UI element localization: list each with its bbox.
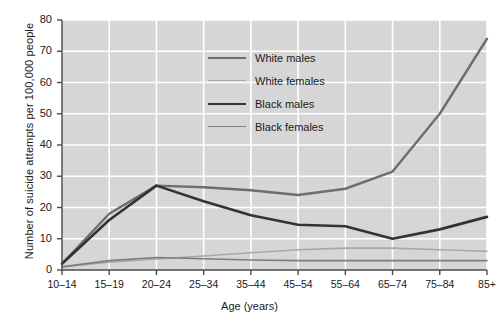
y-tick-label: 30 — [22, 169, 52, 181]
legend-item[interactable]: White males — [208, 46, 325, 69]
legend-line-swatch — [208, 57, 246, 59]
legend-line-swatch — [208, 103, 246, 105]
legend-line-swatch — [208, 126, 246, 127]
x-tick-label: 20–24 — [142, 278, 171, 290]
legend-item[interactable]: Black males — [208, 92, 325, 115]
x-tick-label: 45–54 — [284, 278, 313, 290]
x-tick-label: 55–64 — [331, 278, 360, 290]
x-tick-label: 75–84 — [425, 278, 454, 290]
y-tick-label: 60 — [22, 76, 52, 88]
legend-label: Black males — [255, 98, 314, 110]
x-tick-label: 85+ — [478, 278, 496, 290]
y-tick-label: 0 — [22, 263, 52, 275]
legend-label: Black females — [255, 121, 323, 133]
y-tick-label: 20 — [22, 201, 52, 213]
chart-legend: White malesWhite femalesBlack malesBlack… — [208, 46, 325, 138]
x-tick-label: 35–44 — [236, 278, 265, 290]
legend-line-swatch — [208, 80, 246, 81]
series-line-black-females — [62, 258, 487, 267]
y-tick-label: 10 — [22, 232, 52, 244]
legend-item[interactable]: Black females — [208, 115, 325, 138]
y-tick-label: 50 — [22, 107, 52, 119]
x-tick-label: 15–19 — [95, 278, 124, 290]
series-line-white-females — [62, 248, 487, 267]
chart-figure: Number of suicide attempts per 100,000 p… — [0, 0, 499, 325]
legend-item[interactable]: White females — [208, 69, 325, 92]
legend-label: White males — [255, 52, 316, 64]
y-tick-label: 40 — [22, 138, 52, 150]
y-tick-label: 70 — [22, 44, 52, 56]
x-axis-title: Age (years) — [0, 300, 499, 312]
legend-label: White females — [255, 75, 325, 87]
x-tick-label: 10–14 — [47, 278, 76, 290]
y-tick-label: 80 — [22, 13, 52, 25]
x-tick-label: 25–34 — [189, 278, 218, 290]
x-tick-label: 65–74 — [378, 278, 407, 290]
